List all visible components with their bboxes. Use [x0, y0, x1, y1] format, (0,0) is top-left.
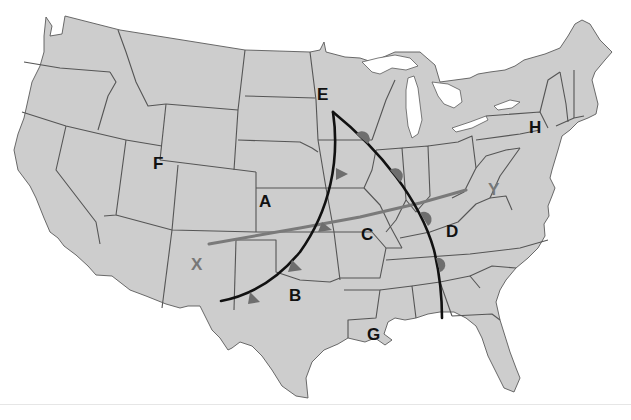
label-d: D — [446, 222, 458, 241]
label-y: Y — [488, 180, 500, 199]
us-weather-map: A B C D E F G H X Y — [0, 0, 631, 420]
label-b: B — [289, 286, 301, 305]
label-c: C — [361, 225, 373, 244]
map-canvas: A B C D E F G H X Y — [0, 0, 631, 420]
label-a: A — [259, 192, 271, 211]
page-edge-divider — [0, 404, 631, 405]
label-h: H — [529, 118, 541, 137]
label-f: F — [153, 154, 163, 173]
label-e: E — [317, 85, 328, 104]
label-g: G — [367, 325, 380, 344]
label-x: X — [191, 255, 203, 274]
